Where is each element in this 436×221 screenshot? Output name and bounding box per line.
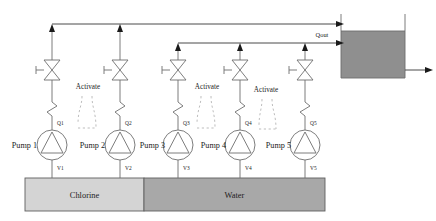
pump-5-valve-label: V5 (310, 165, 317, 171)
pump-2-flow-label: Q2 (125, 120, 132, 126)
activate-leader-2b (211, 96, 215, 128)
pump-3-label: Pump 3 (140, 141, 165, 150)
reservoir-water: Water (144, 178, 325, 211)
pump-3-flow-label: Q3 (183, 120, 190, 126)
pump-5-flex-connector-icon (300, 102, 310, 116)
pump-1-valve-label: V1 (57, 165, 64, 171)
activate-annotation-1: Activate (76, 83, 100, 128)
pump-4-header-arrow-icon (237, 43, 243, 51)
header-pipe-lower: Qout (178, 31, 344, 46)
pump-5-flow-label: Q5 (310, 120, 317, 126)
valve-1[interactable] (36, 60, 60, 80)
pump-3-symbol[interactable] (163, 130, 193, 160)
activate-leader-1a (78, 96, 82, 124)
activate-annotation-2: Activate (195, 83, 219, 128)
pump-2-header-arrow-icon (117, 24, 123, 32)
pump-line-4: Q4 Pump 4 V4 (201, 43, 255, 178)
pump-line-2: Q2 Pump 2 V2 (80, 24, 135, 178)
tank-outlet-arrow-icon (425, 67, 433, 73)
pump-2-valve-label: V2 (125, 165, 132, 171)
activate-label-2: Activate (195, 83, 219, 91)
valve-3[interactable] (162, 60, 186, 80)
valve-5-upper-triangle-icon (297, 60, 313, 70)
pump-1-flex-connector-icon (47, 102, 57, 116)
activate-label-3: Activate (254, 86, 278, 94)
valve-4[interactable] (224, 60, 248, 80)
valve-2[interactable] (104, 60, 128, 80)
pump-line-1: Q1 Pump 1 V1 (12, 24, 67, 178)
activate-leader-3b (272, 99, 276, 129)
storage-tank (341, 14, 433, 78)
activate-leader-3a (259, 99, 262, 126)
pump-4-flow-label: Q4 (245, 120, 252, 126)
pump-2-flex-connector-icon (115, 102, 125, 116)
valve-1-upper-triangle-icon (44, 60, 60, 70)
pump-4-valve-label: V4 (245, 165, 252, 171)
pump-3-flex-connector-icon (173, 102, 183, 116)
reservoir-chlorine-label: Chlorine (70, 191, 100, 200)
valve-5[interactable] (289, 60, 313, 80)
header-upper-tank-arrow-icon (336, 21, 344, 27)
pump-1-symbol[interactable] (37, 130, 67, 160)
activate-leader-2a (197, 96, 201, 124)
pump-3-valve-label: V3 (183, 165, 190, 171)
pump-2-label: Pump 2 (80, 141, 105, 150)
pump-5-label: Pump 5 (266, 141, 291, 150)
pump-5-header-arrow-icon (302, 43, 308, 51)
schematic-canvas: Chlorine Water Qout (0, 0, 436, 221)
pump-5-symbol[interactable] (290, 130, 320, 160)
pump-1-flow-label: Q1 (57, 120, 64, 126)
storage-tank-liquid (341, 31, 405, 78)
activate-label-1: Activate (76, 83, 100, 91)
reservoir-chlorine: Chlorine (25, 178, 144, 211)
activate-annotation-3: Activate (254, 86, 278, 129)
valve-3-lower-triangle-icon (170, 70, 186, 80)
pump-4-label: Pump 4 (201, 141, 226, 150)
valve-3-upper-triangle-icon (170, 60, 186, 70)
pump-line-3: Q3 Pump 3 V3 (140, 43, 193, 178)
pump-3-header-arrow-icon (175, 43, 181, 51)
valve-4-lower-triangle-icon (232, 70, 248, 80)
activate-leader-1b (92, 96, 96, 128)
valve-2-upper-triangle-icon (112, 60, 128, 70)
valve-1-lower-triangle-icon (44, 70, 60, 80)
pump-4-flex-connector-icon (235, 102, 245, 116)
qout-flow-label: Qout (316, 31, 329, 38)
pump-2-symbol[interactable] (105, 130, 135, 160)
pump-1-header-arrow-icon (49, 24, 55, 32)
valve-5-lower-triangle-icon (297, 70, 313, 80)
pump-1-label: Pump 1 (12, 141, 37, 150)
pump-schematic-diagram: Chlorine Water Qout (0, 0, 436, 221)
header-pipe-upper (52, 21, 344, 27)
pump-4-symbol[interactable] (225, 130, 255, 160)
valve-2-lower-triangle-icon (112, 70, 128, 80)
reservoir-water-label: Water (225, 191, 245, 200)
valve-4-upper-triangle-icon (232, 60, 248, 70)
